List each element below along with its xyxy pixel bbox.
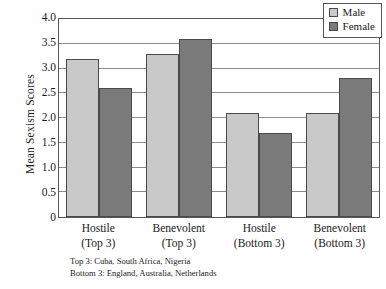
x-category-label-line2: (Bottom 3) [219,236,300,251]
legend-item-male: Male [329,6,375,20]
x-category-label: Hostile(Bottom 3) [219,221,300,251]
bar-male [146,54,179,217]
plot-area [58,18,380,218]
y-tick-label: 0.5 [24,187,56,199]
legend-swatch-female-icon [329,22,338,31]
legend-item-female: Female [329,20,375,34]
chart-footnote: Top 3: Cuba, South Africa, Nigeria Botto… [70,256,217,279]
y-tick-label: 3.5 [24,37,56,49]
x-category-label-line1: Benevolent [139,221,220,236]
bar-male [306,113,339,217]
bar-group [64,19,134,217]
x-category-label: Benevolent(Bottom 3) [300,221,381,251]
y-tick-label: 2.5 [24,87,56,99]
y-tick-label: 3.0 [24,62,56,74]
bar-series-container [59,19,379,217]
y-tick-label: 2.0 [24,112,56,124]
y-tick-label: 0 [24,212,56,224]
bar-group [144,19,214,217]
y-tick-label: 1.0 [24,162,56,174]
legend-label-female: Female [343,20,375,34]
bar-female [99,88,132,217]
bar-male [66,59,99,217]
bar-group [224,19,294,217]
footnote-line-top3: Top 3: Cuba, South Africa, Nigeria [70,256,217,268]
y-axis-tick-labels: 00.51.01.52.02.53.03.54.0 [24,18,56,218]
x-category-label-line2: (Bottom 3) [300,236,381,251]
x-category-label: Hostile(Top 3) [58,221,139,251]
x-category-label: Benevolent(Top 3) [139,221,220,251]
y-tick-label: 4.0 [24,12,56,24]
x-category-label-line1: Hostile [58,221,139,236]
bar-chart-figure: Mean Sexism Scores 00.51.01.52.02.53.03.… [0,0,386,289]
footnote-line-bottom3: Bottom 3: England, Australia, Netherland… [70,268,217,280]
legend-label-male: Male [343,6,366,20]
bar-female [339,78,372,217]
x-category-label-line2: (Top 3) [139,236,220,251]
bar-group [304,19,374,217]
bar-male [226,113,259,217]
chart-legend: Male Female [323,3,382,38]
x-category-label-line1: Hostile [219,221,300,236]
x-category-label-line2: (Top 3) [58,236,139,251]
x-axis-category-labels: Hostile(Top 3)Benevolent(Top 3)Hostile(B… [58,221,380,251]
x-category-label-line1: Benevolent [300,221,381,236]
bar-female [259,133,292,217]
y-tick-label: 1.5 [24,137,56,149]
legend-swatch-male-icon [329,8,338,17]
bar-female [179,39,212,217]
